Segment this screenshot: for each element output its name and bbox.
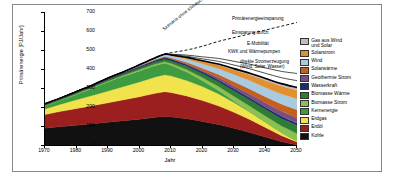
x-tick-mark (202, 145, 203, 148)
y-tick-label: 700 (73, 9, 95, 14)
legend-label: Kohle (311, 133, 324, 138)
y-tick-label: 600 (73, 28, 95, 33)
y-tick-label: 200 (73, 104, 95, 109)
y-tick-mark (41, 107, 44, 108)
legend-item-gas-aus-wind[interactable]: Gas aus Wind und Solar (300, 38, 390, 49)
annotation-e-mobility: E-Mobilität (247, 41, 269, 46)
legend-swatch (300, 83, 309, 90)
x-tick-mark (76, 145, 77, 148)
x-axis-label: Jahr (130, 158, 210, 164)
legend-label: Solarstrom (311, 50, 335, 55)
x-tick-label: 1980 (63, 148, 89, 153)
x-tick-mark (296, 145, 297, 148)
legend-item-kohle[interactable]: Kohle (300, 133, 390, 140)
legend-swatch (300, 108, 309, 115)
legend-swatch (300, 133, 309, 140)
legend-label: Erdgas (311, 116, 327, 121)
x-tick-mark (233, 145, 234, 148)
y-tick-mark (41, 88, 44, 89)
legend-label: Gas aus Wind und Solar (311, 38, 342, 49)
x-tick-label: 2010 (157, 148, 183, 153)
legend-swatch (300, 117, 309, 124)
x-tick-label: 2030 (220, 148, 246, 153)
annotation-saving-through: Einsparung durch: (232, 30, 269, 35)
y-tick-label: 100 (73, 123, 95, 128)
x-tick-mark (265, 145, 266, 148)
x-tick-label: 1990 (94, 148, 120, 153)
x-tick-mark (139, 145, 140, 148)
legend-label: Biomasse Wärme (311, 91, 350, 96)
legend-label: Solarwärme (311, 66, 337, 71)
annotation-primary-energy-saving: Primärenergieeinsparung (232, 16, 284, 21)
legend-item-erdgas[interactable]: Erdgas (300, 116, 390, 123)
y-tick-label: 500 (73, 47, 95, 52)
legend-item-solarstrom[interactable]: Solarstrom (300, 50, 390, 57)
legend-item-wasserkraft[interactable]: Wasserkraft (300, 83, 390, 90)
x-tick-mark (107, 145, 108, 148)
y-tick-mark (41, 126, 44, 127)
y-tick-mark (41, 12, 44, 13)
y-tick-mark (41, 31, 44, 32)
chart-legend: Gas aus Wind und SolarSolarstromWindSola… (300, 38, 390, 141)
legend-label: Erdöl (311, 124, 322, 129)
legend-swatch (300, 75, 309, 82)
annotation-direct-generation: direkte Stromerzeugung (Wind, Solar, Was… (240, 59, 289, 69)
legend-item-kernenergie[interactable]: Kernenergie (300, 108, 390, 115)
legend-swatch (300, 50, 309, 57)
legend-swatch (300, 38, 309, 45)
chart-figure: 0100200300400500600700 19701980199020002… (0, 0, 393, 180)
y-tick-mark (41, 69, 44, 70)
annotation-chp-heatpumps: KWK und Wärmepumpen (228, 49, 280, 54)
legend-label: Wind (311, 58, 322, 63)
legend-item-wind[interactable]: Wind (300, 58, 390, 65)
legend-swatch (300, 92, 309, 99)
x-tick-label: 2040 (252, 148, 278, 153)
legend-item-biomasse-strom[interactable]: Biomasse Strom (300, 100, 390, 107)
legend-swatch (300, 125, 309, 132)
y-axis-label: Primärenergie [PJ/Jahr] (19, 7, 25, 103)
y-tick-label: 300 (73, 85, 95, 90)
y-tick-label: 400 (73, 66, 95, 71)
x-tick-label: 1970 (31, 148, 57, 153)
legend-swatch (300, 100, 309, 107)
legend-swatch (300, 59, 309, 66)
legend-label: Wasserkraft (311, 83, 337, 88)
x-tick-mark (44, 145, 45, 148)
legend-item-erd-l[interactable]: Erdöl (300, 124, 390, 131)
legend-label: Biomasse Strom (311, 100, 347, 105)
x-tick-mark (170, 145, 171, 148)
legend-label: Kernenergie (311, 108, 338, 113)
y-tick-mark (41, 50, 44, 51)
legend-item-biomasse-w-rme[interactable]: Biomasse Wärme (300, 91, 390, 98)
legend-label: Geothermie Strom (311, 75, 351, 80)
x-tick-label: 2020 (189, 148, 215, 153)
x-tick-label: 2050 (283, 148, 309, 153)
x-tick-label: 2000 (126, 148, 152, 153)
legend-item-solarw-rme[interactable]: Solarwärme (300, 66, 390, 73)
legend-item-geothermie-strom[interactable]: Geothermie Strom (300, 75, 390, 82)
legend-swatch (300, 67, 309, 74)
